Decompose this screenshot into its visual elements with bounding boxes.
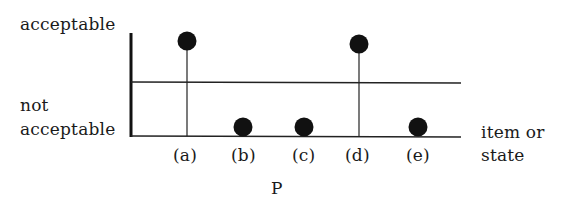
y-label-acceptable: acceptable: [20, 14, 115, 34]
threshold-line: [131, 82, 461, 83]
item-label-c: (c): [292, 145, 315, 165]
x-axis-label-line2: state: [481, 145, 525, 165]
item-label-b: (b): [231, 145, 256, 165]
caption-p: P: [271, 178, 283, 198]
x-axis-baseline: [131, 136, 461, 137]
dot-d: [350, 35, 369, 54]
y-label-not: not: [20, 95, 49, 115]
dot-a: [178, 32, 197, 51]
dot-e: [409, 118, 428, 137]
dot-b: [234, 118, 253, 137]
y-label-not-acceptable: acceptable: [20, 119, 115, 139]
item-label-d: (d): [345, 145, 370, 165]
item-label-e: (e): [406, 145, 430, 165]
item-label-a: (a): [173, 145, 197, 165]
x-axis-label-line1: item or: [481, 122, 545, 142]
dot-c: [295, 118, 314, 137]
